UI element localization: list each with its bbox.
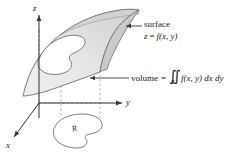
volume-equals-sign: = xyxy=(161,73,166,83)
volume-label-text: volume xyxy=(131,73,158,83)
surface-callout-label: surface xyxy=(144,20,170,29)
z-axis-label: z xyxy=(33,4,37,13)
surface-equation-eq: = xyxy=(150,31,155,41)
integral-subscript-R: R xyxy=(171,80,174,86)
x-axis-label: x xyxy=(6,141,10,150)
volume-integrand: f(x, y) dx dy xyxy=(181,73,223,83)
double-integral-group: ∬R xyxy=(169,73,180,84)
y-axis-label: y xyxy=(126,98,130,107)
x-axis xyxy=(14,103,39,137)
surface-equation-label: z=f(x, y) xyxy=(144,32,178,41)
surface-equation-rhs: f(x, y) xyxy=(157,31,178,41)
surface-equation-lhs: z xyxy=(144,31,148,41)
volume-under-surface-diagram: z y x surface z=f(x, y) volume=∬Rf(x, y)… xyxy=(0,0,238,157)
surface-sheet xyxy=(23,9,139,96)
volume-equation-label: volume=∬Rf(x, y) dx dy xyxy=(131,73,224,84)
